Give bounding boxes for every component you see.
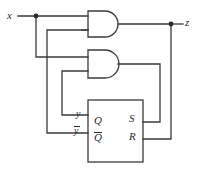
junction-dot-z [169,22,174,27]
label-output-z: z [185,17,189,28]
and-gate-top-body [88,11,118,37]
junction-dot-x [34,14,39,19]
overbar-y-bar [74,126,80,127]
wire-and-bottom-output-to-s [118,64,160,122]
circuit-schematic-svg [0,0,201,170]
label-ff-q: Q [94,115,102,126]
circuit-diagram-canvas: x z y y Q Q S R [0,0,201,170]
overbar-q-bar [94,132,102,133]
label-ff-q-bar: Q [94,132,102,143]
wire-x-to-and-bottom-in1 [36,16,88,57]
label-ff-s: S [129,113,135,124]
label-input-x: x [7,10,12,21]
label-ff-r: R [129,131,136,142]
label-feedback-y-bar: y [74,126,78,136]
wire-qbar-feedback-to-and-top-in2 [47,30,88,133]
wire-q-feedback-to-and-bottom-in2 [62,71,88,115]
and-gate-bottom-body [88,50,119,78]
label-feedback-y: y [76,109,80,119]
